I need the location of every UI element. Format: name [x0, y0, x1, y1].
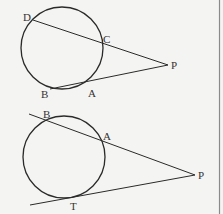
figure-secant-secant: D C P A B — [21, 7, 177, 100]
diagram-canvas: D C P A B B A P T — [0, 0, 223, 214]
label-p-bottom: P — [198, 169, 204, 181]
label-a-top: A — [88, 87, 96, 99]
label-a-bottom: A — [103, 130, 111, 142]
tangent-tp — [30, 175, 195, 205]
circle-top — [21, 7, 103, 89]
figure-secant-tangent: B A P T — [23, 108, 204, 212]
secant-dp — [33, 20, 168, 65]
secant-bp — [50, 65, 168, 89]
label-b-top: B — [41, 88, 48, 100]
label-c: C — [103, 33, 110, 45]
secant-bap — [29, 114, 195, 175]
label-p-top: P — [171, 59, 177, 71]
label-b-bottom: B — [43, 108, 50, 120]
label-t: T — [70, 200, 77, 212]
label-d: D — [23, 11, 31, 23]
circle-bottom — [23, 116, 105, 198]
